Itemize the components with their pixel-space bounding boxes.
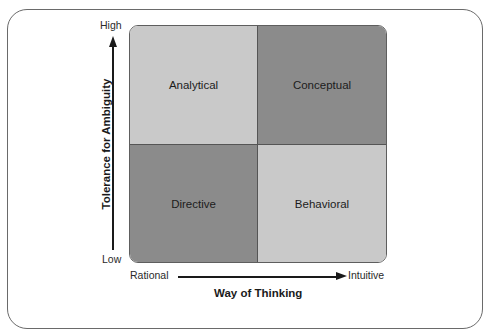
y-axis-high-label: High	[100, 19, 122, 31]
y-axis-low-label: Low	[102, 253, 121, 265]
x-axis-right-label: Intuitive	[348, 269, 384, 281]
quadrant-label: Directive	[171, 198, 216, 210]
quadrant-label: Behavioral	[295, 198, 349, 210]
quadrant-matrix: Analytical Conceptual Directive Behavior…	[129, 25, 387, 263]
x-axis-left-label: Rational	[130, 269, 169, 281]
quadrant-directive: Directive	[130, 145, 258, 263]
y-axis-arrow-line	[112, 46, 114, 250]
x-axis-title: Way of Thinking	[214, 287, 302, 299]
quadrant-conceptual: Conceptual	[258, 26, 386, 145]
x-axis-arrow-head-icon	[336, 272, 347, 280]
x-axis-arrow-line	[178, 276, 338, 278]
quadrant-analytical: Analytical	[130, 26, 258, 145]
quadrant-label: Analytical	[169, 79, 218, 91]
quadrant-behavioral: Behavioral	[258, 145, 386, 263]
y-axis-title: Tolerance for Ambiguity	[100, 74, 112, 214]
quadrant-label: Conceptual	[293, 79, 351, 91]
